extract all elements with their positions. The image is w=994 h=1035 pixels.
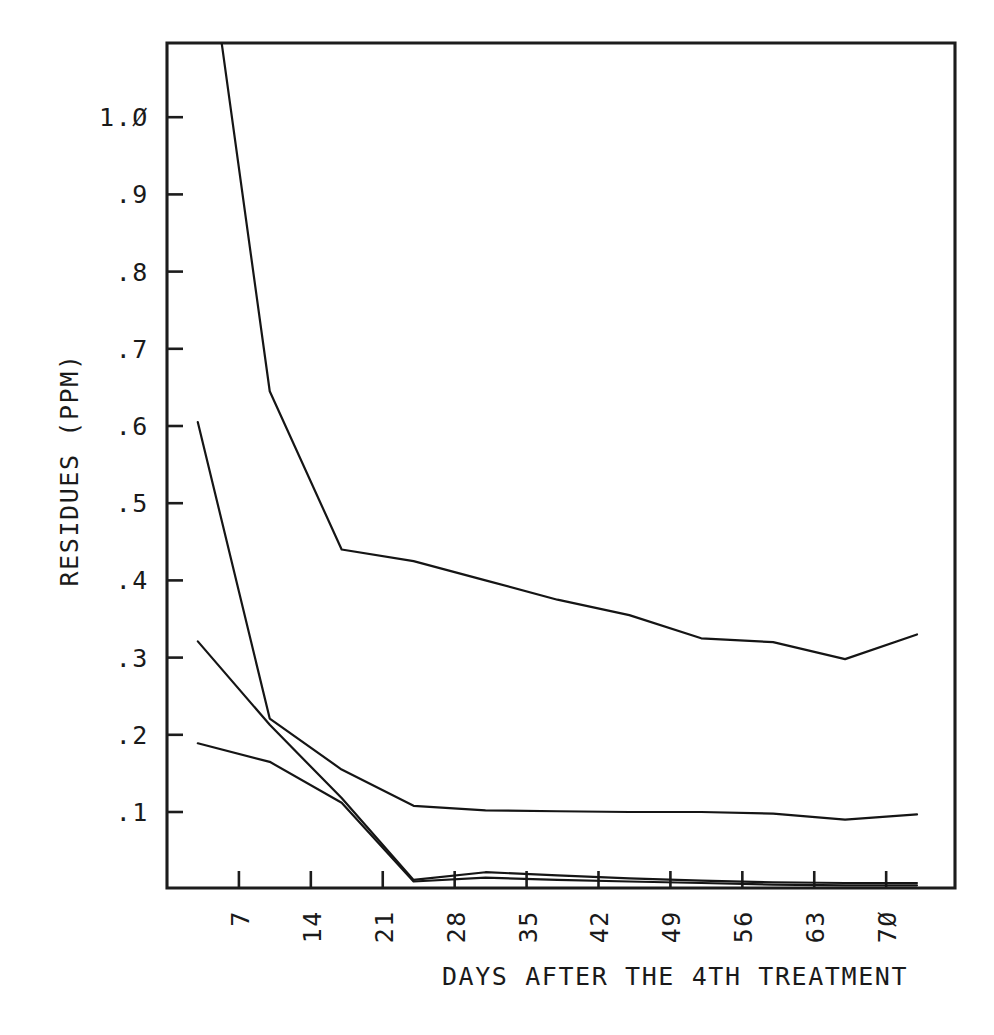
x-axis-tick-label: 28 — [442, 910, 471, 943]
data-line-3 — [198, 641, 917, 883]
data-series-group — [198, 0, 917, 885]
data-line-4 — [198, 743, 917, 885]
y-axis-tick-label: .6 — [116, 412, 149, 441]
y-axis-tick-labels: .1.2.3.4.5.6.7.8.91.Ø — [99, 103, 149, 827]
x-axis-title: DAYS AFTER THE 4TH TREATMENT — [442, 962, 908, 991]
figure-container: .1.2.3.4.5.6.7.8.91.Ø 714212835424956637… — [0, 0, 994, 1035]
y-axis-tick-label: .7 — [116, 335, 149, 364]
x-axis-tick-label: 7Ø — [873, 910, 902, 943]
y-axis-tick-label: .2 — [116, 721, 149, 750]
y-axis-tick-label: .5 — [116, 489, 149, 518]
y-axis-tick-label: .9 — [116, 180, 149, 209]
y-axis-title: RESIDUES (PPM) — [55, 353, 84, 586]
x-axis-tick-label: 14 — [298, 910, 327, 943]
x-axis-tick-label: 21 — [370, 910, 399, 943]
y-axis-ticks — [167, 117, 183, 812]
x-axis-tick-label: 7 — [226, 910, 255, 927]
x-axis-tick-label: 49 — [657, 910, 686, 943]
y-axis-tick-label: .8 — [116, 258, 149, 287]
x-axis-tick-label: 63 — [801, 910, 830, 943]
data-line-1 — [198, 0, 917, 659]
plot-frame — [167, 43, 955, 888]
x-axis-tick-label: 42 — [585, 910, 614, 943]
x-axis-tick-labels: 714212835424956637Ø — [226, 910, 902, 943]
y-axis-tick-label: .3 — [116, 644, 149, 673]
y-axis-tick-label: .4 — [116, 566, 149, 595]
y-axis-tick-label: .1 — [116, 798, 149, 827]
line-chart: .1.2.3.4.5.6.7.8.91.Ø 714212835424956637… — [0, 0, 994, 1035]
y-axis-tick-label: 1.Ø — [99, 103, 149, 132]
x-axis-tick-label: 35 — [514, 910, 543, 943]
x-axis-tick-label: 56 — [729, 910, 758, 943]
